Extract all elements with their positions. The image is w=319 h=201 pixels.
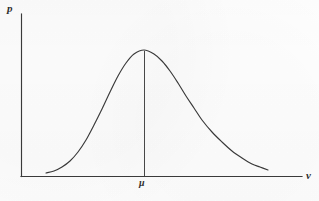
x-axis-label: v <box>306 170 311 181</box>
distribution-plot <box>0 0 319 201</box>
gaussian-curve <box>46 50 268 173</box>
figure-container: p v μ <box>0 0 319 201</box>
y-axis-label: p <box>7 3 13 14</box>
mean-label: μ <box>139 178 145 188</box>
